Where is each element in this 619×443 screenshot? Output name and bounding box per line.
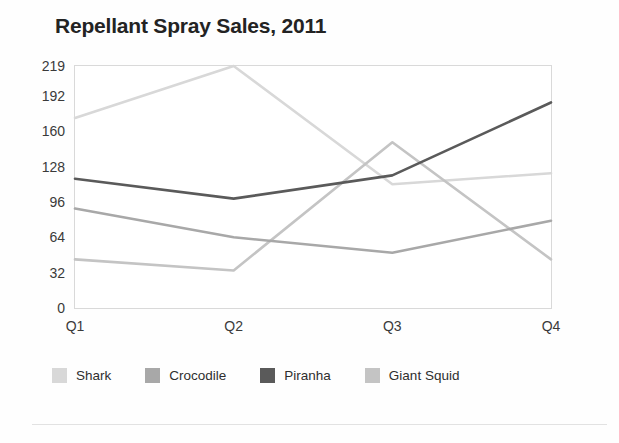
legend-entry[interactable]: Giant Squid	[365, 368, 460, 383]
legend-label: Giant Squid	[389, 368, 460, 383]
page-divider	[32, 424, 607, 425]
legend-swatch	[365, 368, 380, 383]
legend-swatch	[52, 368, 67, 383]
legend-label: Piranha	[284, 368, 331, 383]
legend-entry[interactable]: Piranha	[260, 368, 331, 383]
legend-entry[interactable]: Crocodile	[145, 368, 226, 383]
legend-swatch	[145, 368, 160, 383]
legend-entry[interactable]: Shark	[52, 368, 111, 383]
legend-label: Shark	[76, 368, 111, 383]
legend-swatch	[260, 368, 275, 383]
legend-label: Crocodile	[169, 368, 226, 383]
chart-legend: SharkCrocodilePiranhaGiant Squid	[52, 368, 459, 383]
chart-figure: Repellant Spray Sales, 2011 032649612816…	[0, 0, 619, 443]
